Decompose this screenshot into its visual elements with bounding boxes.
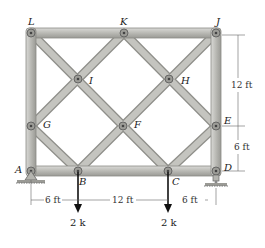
load-arrows	[74, 172, 172, 213]
bottom-chord	[27, 166, 220, 176]
joint-label-j: J	[216, 17, 220, 27]
load-label-c: 2 k	[161, 218, 177, 228]
roller-support-d	[204, 175, 228, 186]
dim-6ft-vertical: 6 ft	[234, 143, 250, 152]
dim-12ft-vertical: 12 ft	[231, 81, 252, 90]
joint-label-a: A	[15, 165, 22, 175]
joint-label-i: I	[89, 76, 93, 86]
joint-label-h: H	[181, 76, 190, 86]
left-post	[26, 28, 36, 176]
truss-diagram: L K J I H G F E A B C D 6 ft 12 ft 6 ft …	[0, 0, 265, 248]
joint-label-k: K	[120, 17, 127, 27]
joint-label-b: B	[79, 177, 86, 187]
joint-label-e: E	[224, 116, 231, 126]
dim-6ft-right: 6 ft	[182, 196, 198, 205]
joint-label-l: L	[28, 17, 35, 27]
dim-6ft-left: 6 ft	[45, 196, 61, 205]
joint-label-c: C	[172, 177, 180, 187]
dim-12ft-middle: 12 ft	[112, 196, 133, 205]
joint-label-d: D	[224, 163, 232, 173]
right-post	[211, 28, 221, 176]
joint-label-g: G	[43, 120, 51, 130]
joint-label-f: F	[134, 120, 141, 130]
load-label-b: 2 k	[70, 218, 86, 228]
